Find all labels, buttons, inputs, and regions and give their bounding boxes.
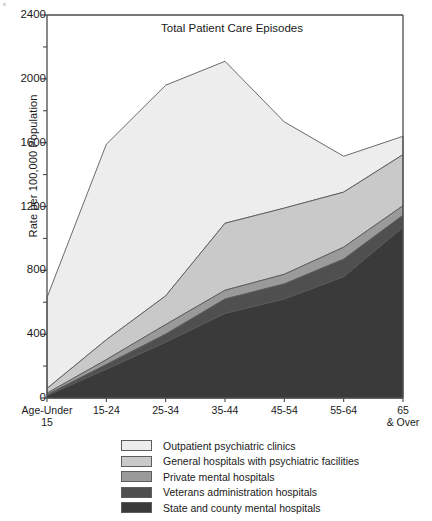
legend-swatch: [121, 502, 152, 513]
legend-item: General hospitals with psychiatric facil…: [121, 454, 421, 469]
chart-title: Total Patient Care Episodes: [60, 22, 404, 34]
y-tick-label: 1600: [6, 137, 46, 149]
y-axis-tick-labels: 04008001200160020002400: [0, 0, 46, 435]
legend-item: Private mental hospitals: [121, 469, 421, 484]
x-axis-tick-labels: Age-Under 1515-2425-3435-4445-5455-6465 …: [0, 399, 432, 439]
legend-label: State and county mental hospitals: [163, 502, 321, 514]
y-tick-label: 2400: [6, 9, 46, 21]
legend-label: Private mental hospitals: [163, 471, 274, 483]
y-tick-label: 1200: [6, 201, 46, 213]
legend-swatch: [121, 471, 152, 482]
y-tick-label: 400: [6, 328, 46, 340]
legend-label: Outpatient psychiatric clinics: [163, 440, 295, 452]
legend-item: Outpatient psychiatric clinics: [121, 438, 421, 453]
legend-item: Veterans administration hospitals: [121, 485, 421, 500]
chart-legend: Outpatient psychiatric clinicsGeneral ho…: [121, 438, 421, 516]
y-tick-label: 2000: [6, 73, 46, 85]
x-tick-label: 65 & Over: [358, 405, 432, 428]
y-tick-label: 800: [6, 264, 46, 276]
legend-item: State and county mental hospitals: [121, 500, 421, 515]
plot-area: Total Patient Care Episodes Rate per 100…: [0, 0, 432, 435]
chart-root: Total Patient Care Episodes Rate per 100…: [0, 0, 432, 521]
legend-label: Veterans administration hospitals: [163, 486, 317, 498]
legend-swatch: [121, 440, 152, 451]
legend-swatch: [121, 487, 152, 498]
area-series-group: [47, 61, 403, 398]
legend-swatch: [121, 456, 152, 467]
legend-label: General hospitals with psychiatric facil…: [163, 455, 359, 467]
stacked-area-chart: [0, 0, 432, 435]
